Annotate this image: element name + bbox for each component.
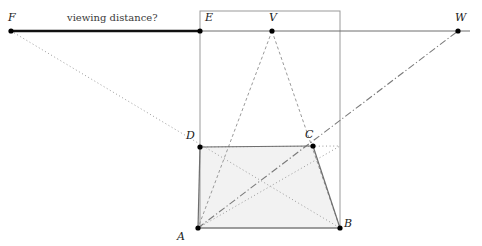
point-label-C: C [305,129,313,140]
point-label-W: W [455,12,466,23]
vertex-dot-V [269,28,274,33]
vertex-dot-W [455,28,460,33]
vertex-dot-B [337,225,342,230]
vertex-dot-C [310,143,315,148]
vertex-dot-F [8,28,13,33]
viewing-distance-label: viewing distance? [67,13,158,23]
vertex-dot-E [197,28,202,33]
point-label-B: B [344,218,352,229]
perspective-diagram: F E V W D C A B viewing distance? [0,0,482,246]
vertex-dot-A [195,225,200,230]
point-label-F: F [8,12,16,23]
point-label-E: E [205,12,213,23]
dotted-line-f-d-b [11,31,340,228]
vertex-dot-D [197,144,202,149]
point-label-D: D [186,130,195,141]
point-label-V: V [269,12,277,23]
diagram-canvas [0,0,482,246]
point-label-A: A [177,231,185,242]
